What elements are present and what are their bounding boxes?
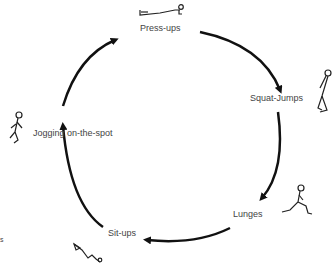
station-label-jogging: Jogging on-the-spot: [33, 128, 113, 138]
sit-up-figure-icon: [74, 244, 102, 262]
squat-jump-figure-icon: [318, 70, 331, 112]
arrow-squatjumps-to-lunges: [262, 112, 280, 198]
arrow-jogging-to-pressups: [63, 40, 115, 106]
lunge-figure-icon: [282, 185, 312, 214]
station-label-sit-ups: Sit-ups: [108, 228, 136, 238]
edge-mark: s: [0, 236, 4, 243]
arrow-lunges-to-situps: [147, 228, 230, 241]
arrow-situps-to-jogging: [63, 126, 103, 227]
press-up-figure-icon: [140, 5, 183, 15]
station-label-squat-jumps: Squat-Jumps: [250, 93, 303, 103]
station-label-lunges: Lunges: [233, 209, 263, 219]
station-label-press-ups: Press-ups: [140, 23, 181, 33]
arrow-pressups-to-squatjumps: [200, 32, 280, 90]
jogging-figure-icon: [10, 112, 22, 143]
